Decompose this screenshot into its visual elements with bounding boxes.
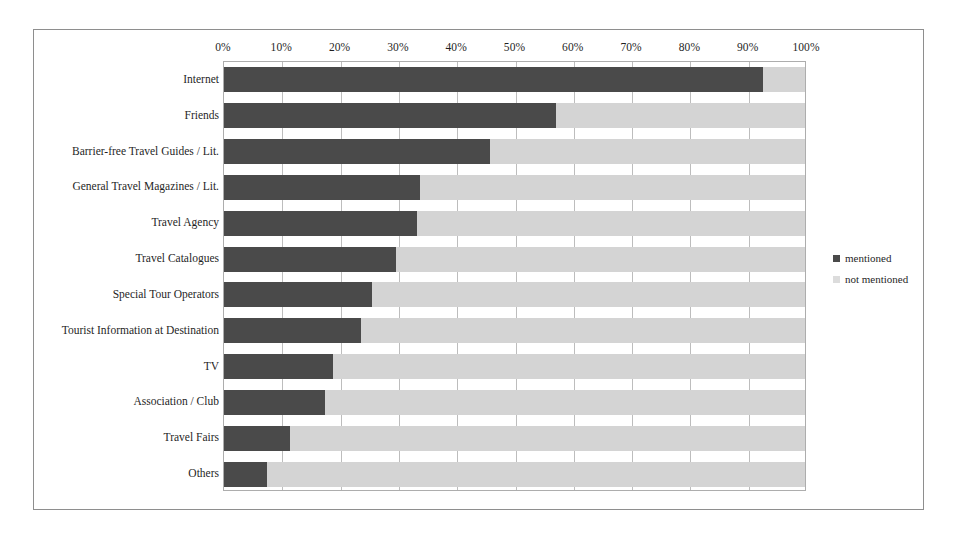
bar-segment-not-mentioned[interactable] (267, 462, 805, 487)
category-label: Others (39, 467, 219, 480)
category-label: Friends (39, 108, 219, 121)
category-label: Special Tour Operators (39, 287, 219, 300)
bar-row[interactable] (224, 67, 805, 92)
legend-label: not mentioned (845, 271, 908, 288)
bar-row[interactable] (224, 139, 805, 164)
bar-row[interactable] (224, 390, 805, 415)
bar-segment-not-mentioned[interactable] (556, 103, 805, 128)
x-tick-label: 30% (387, 41, 408, 53)
bar-row[interactable] (224, 175, 805, 200)
x-tick-label: 90% (737, 41, 758, 53)
bar-segment-mentioned[interactable] (224, 67, 763, 92)
figure-frame: 0%10%20%30%40%50%60%70%80%90%100% Intern… (33, 29, 924, 510)
bar-row[interactable] (224, 282, 805, 307)
x-tick-label: 50% (504, 41, 525, 53)
bar-segment-not-mentioned[interactable] (361, 318, 805, 343)
bar-segment-not-mentioned[interactable] (417, 211, 805, 236)
bar-segment-mentioned[interactable] (224, 390, 325, 415)
x-tick-label: 10% (271, 41, 292, 53)
bar-segment-mentioned[interactable] (224, 462, 267, 487)
bar-segment-not-mentioned[interactable] (372, 282, 805, 307)
bar-segment-not-mentioned[interactable] (763, 67, 805, 92)
bar-segment-not-mentioned[interactable] (333, 354, 805, 379)
legend-swatch-icon (833, 276, 840, 283)
bar-row[interactable] (224, 103, 805, 128)
bar-row[interactable] (224, 211, 805, 236)
bar-segment-mentioned[interactable] (224, 282, 372, 307)
bar-row[interactable] (224, 247, 805, 272)
x-tick-label: 20% (329, 41, 350, 53)
bar-row[interactable] (224, 462, 805, 487)
bar-segment-not-mentioned[interactable] (420, 175, 805, 200)
bar-segment-mentioned[interactable] (224, 175, 420, 200)
x-tick-label: 100% (792, 41, 819, 53)
bar-segment-not-mentioned[interactable] (490, 139, 805, 164)
category-label: Travel Catalogues (39, 252, 219, 265)
bars-layer (224, 62, 805, 490)
bar-segment-not-mentioned[interactable] (290, 426, 805, 451)
legend-item[interactable]: not mentioned (833, 271, 923, 288)
legend-swatch-icon (833, 255, 840, 262)
category-label: TV (39, 359, 219, 372)
bar-segment-mentioned[interactable] (224, 211, 417, 236)
category-label: Travel Fairs (39, 431, 219, 444)
category-label: Internet (39, 72, 219, 85)
bar-segment-mentioned[interactable] (224, 318, 361, 343)
bar-row[interactable] (224, 354, 805, 379)
plot-area (223, 61, 806, 491)
stacked-bar-chart: 0%10%20%30%40%50%60%70%80%90%100% Intern… (34, 30, 925, 511)
chart-legend: mentionednot mentioned (833, 250, 923, 292)
x-tick-label: 70% (620, 41, 641, 53)
bar-row[interactable] (224, 318, 805, 343)
x-axis-tick-labels: 0%10%20%30%40%50%60%70%80%90%100% (223, 41, 806, 59)
bar-segment-mentioned[interactable] (224, 426, 290, 451)
x-tick-label: 60% (562, 41, 583, 53)
x-tick-label: 80% (679, 41, 700, 53)
x-tick-label: 40% (445, 41, 466, 53)
x-tick-label: 0% (215, 41, 231, 53)
category-label: Association / Club (39, 395, 219, 408)
bar-segment-mentioned[interactable] (224, 103, 556, 128)
bar-segment-mentioned[interactable] (224, 139, 490, 164)
category-label: Tourist Information at Destination (39, 323, 219, 336)
category-label: Barrier-free Travel Guides / Lit. (39, 144, 219, 157)
bar-segment-not-mentioned[interactable] (325, 390, 806, 415)
bar-segment-mentioned[interactable] (224, 247, 396, 272)
category-label: General Travel Magazines / Lit. (39, 180, 219, 193)
bar-segment-not-mentioned[interactable] (396, 247, 805, 272)
legend-item[interactable]: mentioned (833, 250, 923, 267)
bar-segment-mentioned[interactable] (224, 354, 333, 379)
bar-row[interactable] (224, 426, 805, 451)
legend-label: mentioned (845, 250, 891, 267)
category-label: Travel Agency (39, 216, 219, 229)
y-axis-category-labels: InternetFriendsBarrier-free Travel Guide… (39, 61, 219, 491)
